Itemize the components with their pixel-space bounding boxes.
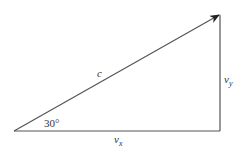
hypotenuse-vector-c — [14, 15, 219, 131]
hypotenuse-label: c — [97, 67, 102, 79]
angle-label: 30° — [44, 117, 59, 129]
vector-triangle-diagram: c vy vx 30° — [0, 0, 244, 154]
vertical-label: vy — [224, 73, 233, 88]
horizontal-label: vx — [114, 133, 123, 148]
